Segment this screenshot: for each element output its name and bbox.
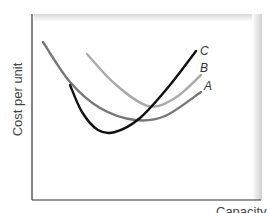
curve-b xyxy=(87,54,201,107)
curve-label-a: A xyxy=(203,79,212,93)
curve-label-c: C xyxy=(200,44,209,58)
x-axis-label: Capacity xyxy=(216,204,267,213)
curve-label-b: B xyxy=(200,61,208,75)
curve-a xyxy=(43,42,201,121)
y-axis-label: Cost per unit xyxy=(10,55,25,145)
cost-curves-chart: CBA xyxy=(0,0,268,213)
